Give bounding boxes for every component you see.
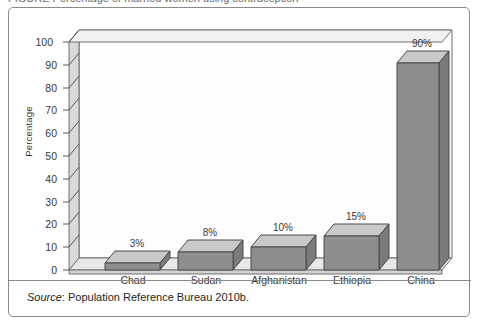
bar-afghanistan[interactable]	[251, 235, 316, 270]
chart-plot-area: Percentage 0 10 20 30 40 50 60 70 80 90 …	[9, 8, 471, 280]
figure-frame: Percentage 0 10 20 30 40 50 60 70 80 90 …	[8, 7, 470, 317]
chart-3d-scene	[9, 8, 471, 280]
y-tick-label-50: 50	[27, 150, 57, 162]
y-tick-label-70: 70	[27, 104, 57, 116]
plot-back-wall	[79, 30, 452, 258]
value-label-sudan: 8%	[203, 227, 217, 238]
value-label-chad: 3%	[130, 238, 144, 249]
y-tick-label-90: 90	[27, 59, 57, 71]
bar-sudan[interactable]	[178, 240, 243, 270]
plot-wall-top-edge	[69, 30, 452, 42]
y-tick-label-10: 10	[27, 241, 57, 253]
bar-ethiopia[interactable]	[324, 224, 389, 270]
value-label-afghanistan: 10%	[273, 222, 293, 233]
y-tick-label-60: 60	[27, 127, 57, 139]
value-label-china: 90%	[412, 38, 432, 49]
bar-china[interactable]	[397, 51, 449, 270]
source-label: Source	[27, 291, 62, 303]
value-label-ethiopia: 15%	[346, 211, 366, 222]
y-tick-label-30: 30	[27, 196, 57, 208]
y-tick-label-40: 40	[27, 173, 57, 185]
source-note: Source: Population Reference Bureau 2010…	[27, 291, 249, 303]
source-text: : Population Reference Bureau 2010b.	[62, 291, 249, 303]
y-tick-label-0: 0	[27, 264, 57, 276]
bar-chad[interactable]	[105, 251, 170, 270]
y-tick-label-20: 20	[27, 218, 57, 230]
source-divider	[9, 280, 471, 281]
y-tick-label-80: 80	[27, 82, 57, 94]
figure-caption-cutoff: FIGURE Percentage of married women using…	[8, 0, 470, 5]
y-tick-label-100: 100	[23, 36, 53, 48]
